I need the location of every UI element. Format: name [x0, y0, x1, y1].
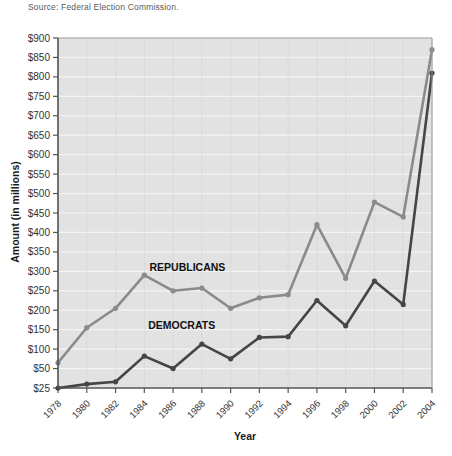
x-tick-label: 2004 — [415, 398, 438, 421]
y-tick-label: $50 — [33, 363, 50, 374]
data-point — [199, 285, 204, 290]
y-tick-label: $550 — [28, 169, 51, 180]
data-point — [257, 335, 262, 340]
y-tick-label: $900 — [28, 33, 51, 44]
x-tick-label: 1988 — [185, 398, 208, 421]
data-point — [170, 366, 175, 371]
data-point — [372, 200, 377, 205]
x-tick-label: 1992 — [242, 398, 265, 421]
y-tick-label: $500 — [28, 188, 51, 199]
data-point — [372, 278, 377, 283]
y-tick-label: $850 — [28, 52, 51, 63]
data-point — [199, 341, 204, 346]
x-tick-label: 1980 — [69, 398, 92, 421]
data-point — [343, 323, 348, 328]
x-tick-label: 1990 — [213, 398, 236, 421]
data-point — [343, 276, 348, 281]
x-tick-label: 1984 — [127, 398, 150, 421]
data-point — [228, 356, 233, 361]
y-tick-label: $750 — [28, 91, 51, 102]
x-tick-label: 1994 — [271, 398, 294, 421]
data-point — [228, 306, 233, 311]
y-tick-label: $200 — [28, 305, 51, 316]
x-axis-ticks: 1978198019821984198619881990199219941996… — [41, 388, 438, 420]
data-point — [113, 379, 118, 384]
x-axis-title: Year — [234, 430, 256, 442]
x-tick-label: 2000 — [357, 398, 380, 421]
x-tick-label: 1982 — [98, 398, 121, 421]
data-point — [314, 298, 319, 303]
y-tick-label: $350 — [28, 246, 51, 257]
x-tick-label: 1978 — [41, 398, 64, 421]
data-point — [314, 222, 319, 227]
series-label: REPUBLICANS — [150, 261, 226, 273]
y-tick-label: $650 — [28, 130, 51, 141]
y-tick-label: $400 — [28, 227, 51, 238]
data-point — [142, 354, 147, 359]
y-tick-label: $450 — [28, 208, 51, 219]
y-tick-label: $250 — [28, 285, 51, 296]
line-chart: $25$50$100$150$200$250$300$350$400$450$5… — [0, 0, 452, 456]
x-tick-label: 2002 — [386, 398, 409, 421]
chart-canvas: $25$50$100$150$200$250$300$350$400$450$5… — [0, 0, 452, 456]
data-point — [286, 292, 291, 297]
data-point — [401, 214, 406, 219]
data-point — [113, 306, 118, 311]
series-label: DEMOCRATS — [148, 319, 215, 331]
y-tick-label: $100 — [28, 344, 51, 355]
data-point — [142, 273, 147, 278]
y-tick-label: $700 — [28, 110, 51, 121]
data-point — [257, 295, 262, 300]
x-tick-label: 1996 — [300, 398, 323, 421]
y-tick-label: $800 — [28, 71, 51, 82]
y-axis-title: Amount (in millions) — [9, 161, 21, 263]
y-tick-label: $150 — [28, 324, 51, 335]
y-tick-label: $25 — [33, 383, 50, 394]
y-axis-ticks: $25$50$100$150$200$250$300$350$400$450$5… — [28, 33, 58, 394]
x-tick-label: 1986 — [156, 398, 179, 421]
data-point — [84, 382, 89, 387]
y-tick-label: $300 — [28, 266, 51, 277]
y-tick-label: $600 — [28, 149, 51, 160]
data-point — [170, 288, 175, 293]
data-point — [286, 334, 291, 339]
data-point — [401, 302, 406, 307]
x-tick-label: 1998 — [328, 398, 351, 421]
data-point — [84, 325, 89, 330]
